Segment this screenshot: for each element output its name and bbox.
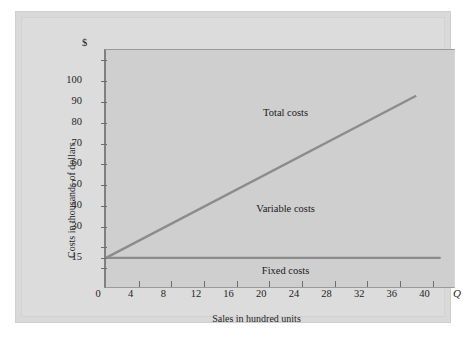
- y-axis-tick-label: 60: [22, 158, 82, 168]
- chart-panel-outer: Total costsFixed costsVariable costs Cos…: [15, 11, 451, 323]
- y-axis-tick: [101, 81, 107, 82]
- y-axis-tick: [101, 185, 107, 186]
- x-axis-tick: [400, 281, 401, 287]
- series-label-variable-costs: Variable costs: [256, 203, 315, 214]
- series-line-total-costs: [106, 96, 416, 258]
- x-axis-tick-label: 36: [378, 288, 406, 299]
- y-axis-tick-label: 50: [22, 179, 82, 189]
- x-axis-tick-label: 8: [149, 288, 177, 299]
- plot-area: Total costsFixed costsVariable costs: [104, 49, 455, 288]
- x-axis-tick-label: 24: [280, 288, 308, 299]
- x-axis-tick-label: 4: [117, 288, 145, 299]
- x-axis-tick: [269, 281, 270, 287]
- chart-panel-inner: Total costsFixed costsVariable costs Cos…: [21, 17, 445, 317]
- x-axis-tick-label: 28: [313, 288, 341, 299]
- x-axis-tick-label: 32: [345, 288, 373, 299]
- y-axis-unit-symbol: $: [82, 37, 87, 48]
- x-axis-tick-label: 16: [215, 288, 243, 299]
- series-label-fixed-costs: Fixed costs: [262, 265, 310, 276]
- x-axis-tick: [237, 281, 238, 287]
- y-axis-tick-label: 15: [22, 252, 82, 262]
- y-axis-tick: [101, 258, 107, 259]
- x-axis-tick-label: 20: [247, 288, 275, 299]
- x-axis-tick: [302, 281, 303, 287]
- y-axis-tick-label: 40: [22, 200, 82, 210]
- y-axis-tick: [101, 123, 107, 124]
- y-axis-tick-label: 100: [22, 75, 82, 85]
- x-axis-unit-symbol: Q: [453, 287, 461, 299]
- x-axis-tick: [367, 281, 368, 287]
- y-axis-tick: [101, 102, 107, 103]
- x-axis-tick: [433, 281, 434, 287]
- y-axis-tick-label: 70: [22, 138, 82, 148]
- figure-canvas: Total costsFixed costsVariable costs Cos…: [0, 0, 469, 340]
- y-axis-tick: [101, 60, 107, 61]
- x-axis-tick: [139, 281, 140, 287]
- y-axis-tick: [101, 227, 107, 228]
- series-lines: [106, 50, 457, 289]
- series-label-total-costs: Total costs: [263, 107, 308, 118]
- x-axis-tick-label: 40: [411, 288, 439, 299]
- y-axis-tick-label: 90: [22, 96, 82, 106]
- y-axis-tick: [101, 247, 107, 248]
- x-axis-title: Sales in hundred units: [22, 313, 469, 324]
- x-axis-tick-label: 12: [182, 288, 210, 299]
- x-axis-tick-label: 0: [84, 288, 112, 299]
- y-axis-tick-label: 80: [22, 117, 82, 127]
- x-axis-tick: [335, 281, 336, 287]
- y-axis-tick: [101, 206, 107, 207]
- y-axis-tick: [101, 268, 107, 269]
- y-axis-tick: [101, 144, 107, 145]
- x-axis-tick: [171, 281, 172, 287]
- y-axis-tick-label: 30: [22, 221, 82, 231]
- x-axis-tick: [204, 281, 205, 287]
- y-axis-tick: [101, 164, 107, 165]
